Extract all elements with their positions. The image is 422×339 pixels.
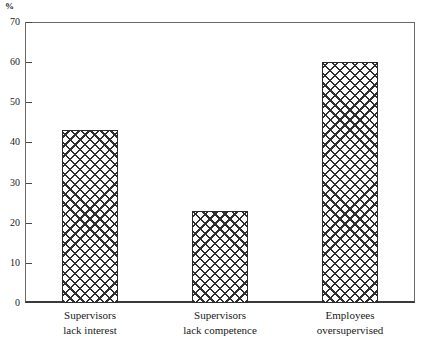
y-axis-tick-mark	[26, 22, 32, 23]
x-axis-category-label-line: oversupervised	[285, 323, 415, 338]
y-axis-tick-mark	[26, 142, 32, 143]
x-axis-category-label: Employeesoversupervised	[285, 308, 415, 338]
y-axis-tick-mark	[26, 183, 32, 184]
y-axis-tick-label: 0	[0, 298, 20, 308]
x-axis-category-label-line: lack competence	[155, 323, 285, 338]
x-axis-category-label-line: Employees	[285, 308, 415, 323]
bar	[192, 211, 248, 303]
y-axis-tick-label: 20	[0, 218, 20, 228]
bar-chart: % 010203040506070 Supervisorslack intere…	[0, 0, 422, 339]
y-axis-unit-label: %	[5, 1, 14, 11]
y-axis-tick-label: 10	[0, 258, 20, 268]
x-axis-category-label-line: lack interest	[25, 323, 155, 338]
x-axis-category-label: Supervisorslack competence	[155, 308, 285, 338]
x-axis-category-label-line: Supervisors	[25, 308, 155, 323]
y-axis-tick-mark	[26, 263, 32, 264]
y-axis-tick-label: 60	[0, 57, 20, 67]
y-axis-tick-label: 30	[0, 178, 20, 188]
y-axis-tick-mark	[26, 62, 32, 63]
y-axis-tick-mark	[26, 102, 32, 103]
y-axis-tick-mark	[26, 223, 32, 224]
y-axis-tick-label: 50	[0, 97, 20, 107]
y-axis-tick-label: 40	[0, 137, 20, 147]
y-axis-tick-label: 70	[0, 17, 20, 27]
x-axis-category-label-line: Supervisors	[155, 308, 285, 323]
bar	[62, 130, 118, 303]
x-axis-category-label: Supervisorslack interest	[25, 308, 155, 338]
bar	[322, 62, 378, 303]
